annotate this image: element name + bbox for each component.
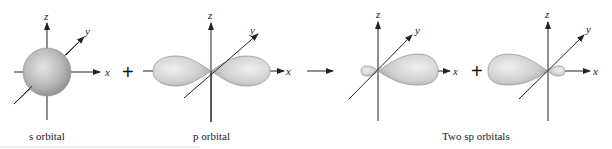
s-orbital-panel: z y x s orbital bbox=[14, 10, 110, 142]
plus-operator: + bbox=[122, 61, 134, 83]
x-label: x bbox=[104, 66, 110, 78]
x-label: x bbox=[285, 65, 291, 77]
x-label: x bbox=[592, 65, 598, 77]
z-label: z bbox=[207, 9, 213, 21]
s-orbital-caption: s orbital bbox=[29, 130, 65, 142]
p-orbital-right-lobe bbox=[211, 56, 270, 86]
plus-operator: + bbox=[471, 60, 483, 82]
p-orbital-panel: z y x p orbital bbox=[143, 9, 291, 142]
x-label: x bbox=[452, 65, 458, 77]
z-label: z bbox=[375, 8, 381, 20]
z-label: z bbox=[544, 8, 550, 20]
y-axis-front bbox=[14, 86, 32, 104]
sp-orbital-1-panel: z y x bbox=[349, 8, 458, 121]
p-orbital-caption: p orbital bbox=[193, 130, 230, 142]
p-orbital-left-lobe bbox=[153, 56, 211, 86]
sp-1-small-lobe bbox=[361, 66, 378, 76]
y-label: y bbox=[249, 24, 255, 36]
y-axis-back bbox=[66, 37, 84, 55]
y-label: y bbox=[585, 23, 591, 35]
sp-orbitals-caption: Two sp orbitals bbox=[442, 130, 510, 142]
sp-hybridization-diagram: z y x s orbital + z y x p orbital z y x … bbox=[0, 0, 612, 149]
sp-orbital-2-panel: z y x bbox=[488, 8, 598, 121]
y-label: y bbox=[414, 24, 420, 36]
y-label: y bbox=[84, 25, 90, 37]
s-orbital-sphere bbox=[23, 48, 71, 96]
sp-1-large-lobe bbox=[378, 54, 438, 85]
z-label: z bbox=[43, 10, 49, 22]
sp-2-large-lobe bbox=[488, 54, 548, 85]
